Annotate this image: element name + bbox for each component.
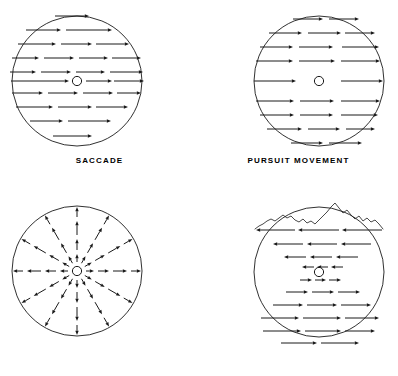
arrow-head — [371, 31, 375, 34]
arrow-head — [124, 105, 128, 108]
radial-flow-arrow — [75, 292, 78, 303]
arrow-shaft — [47, 318, 50, 323]
arrow-head — [330, 99, 334, 102]
arrow-head — [298, 31, 302, 34]
arrow-shaft — [104, 219, 107, 224]
arrow-shaft — [66, 265, 69, 267]
arrow-head — [331, 265, 335, 268]
arrow-head — [297, 329, 301, 332]
radial-flow-arrow — [131, 269, 141, 272]
arrow-shaft — [25, 241, 30, 244]
flow-arrow-right — [260, 113, 294, 116]
panel-saccade: SACCADE — [0, 0, 199, 188]
flow-arrow-left — [341, 242, 371, 245]
arrow-head — [75, 221, 78, 225]
flow-arrow-right — [307, 303, 337, 306]
arrow-head — [371, 127, 375, 130]
fixation-point-marker — [314, 267, 323, 276]
arrow-head — [256, 228, 260, 231]
arrow-head — [137, 269, 141, 272]
radial-flow-arrow — [95, 302, 102, 314]
arrow-shaft — [54, 302, 59, 310]
arrow-head — [375, 316, 379, 319]
flow-arrow-right — [315, 278, 326, 281]
radial-flow-arrow — [113, 269, 127, 272]
arrow-head — [289, 59, 293, 62]
radial-flow-arrow — [86, 269, 94, 272]
arrow-head — [273, 242, 277, 245]
arrow-shaft — [85, 276, 88, 278]
flow-arrow-left — [310, 255, 332, 258]
arrow-head — [62, 263, 66, 267]
arrow-head — [22, 239, 26, 243]
arrow-head — [302, 265, 306, 268]
flow-arrow-right — [53, 134, 92, 137]
radial-flow-arrow — [62, 263, 69, 267]
arrow-head — [128, 299, 132, 303]
arrow-head — [89, 243, 93, 247]
arrow-head — [374, 113, 378, 116]
arrow-head — [69, 281, 73, 285]
arrow-head — [61, 243, 65, 247]
flow-arrow-left — [284, 255, 306, 258]
flow-arrow-left — [331, 265, 343, 268]
radial-flow-arrow — [75, 254, 78, 262]
radial-flow-arrow — [98, 269, 109, 272]
optic-flow-figure: SACCADE PURSUIT MOVEMENT APPROACH MOVEME… — [0, 0, 398, 376]
parallax-flow-field — [199, 188, 398, 376]
radial-flow-arrow — [104, 216, 109, 225]
arrow-head — [88, 105, 92, 108]
arrow-head — [75, 331, 78, 335]
arrow-head — [109, 91, 113, 94]
radial-flow-arrow — [45, 216, 50, 225]
flow-arrow-right — [114, 79, 144, 82]
arrow-head — [89, 294, 93, 298]
flow-arrow-right — [341, 99, 380, 102]
arrow-shaft — [71, 260, 73, 263]
arrow-head — [342, 228, 346, 231]
radial-flow-arrow — [108, 289, 120, 296]
radial-flow-arrow — [52, 228, 59, 240]
arrow-head — [101, 70, 105, 73]
arrow-head — [75, 207, 78, 211]
arrow-head — [70, 56, 74, 59]
arrow-head — [116, 292, 120, 296]
arrow-head — [65, 79, 69, 82]
radial-flow-arrow — [27, 269, 41, 272]
radial-flow-arrow — [52, 302, 59, 314]
flow-arrow-right — [312, 290, 334, 293]
radial-flow-arrow — [85, 263, 92, 267]
radial-flow-arrow — [69, 256, 73, 263]
flow-arrow-right — [308, 31, 341, 34]
radial-flow-arrow — [45, 269, 56, 272]
arrow-shaft — [85, 265, 88, 267]
flow-arrow-left — [298, 228, 339, 231]
arrow-head — [322, 278, 326, 281]
arrow-head — [62, 276, 66, 280]
radial-flow-arrow — [95, 282, 105, 288]
arrow-head — [337, 329, 341, 332]
flow-arrow-right — [254, 79, 296, 82]
flow-arrow-right — [303, 316, 341, 319]
radial-flow-arrow — [108, 246, 120, 253]
arrow-head — [45, 216, 49, 220]
flow-arrow-right — [300, 278, 312, 281]
arrow-head — [125, 42, 129, 45]
flow-arrow-right — [338, 290, 360, 293]
flow-arrow-right — [61, 42, 92, 45]
arrow-head — [88, 134, 92, 137]
radial-flow-arrow — [49, 282, 59, 288]
arrow-head — [379, 79, 383, 82]
arrow-head — [75, 317, 78, 321]
flow-arrow-right — [18, 42, 56, 45]
arrow-head — [128, 239, 132, 243]
flow-arrow-right — [345, 316, 379, 319]
arrow-head — [100, 283, 104, 287]
arrow-head — [82, 256, 86, 260]
arrow-shaft — [63, 289, 66, 295]
arrow-head — [87, 263, 91, 267]
arrow-head — [34, 246, 38, 250]
arrow-head — [60, 269, 64, 272]
arrow-head — [32, 70, 36, 73]
arrow-shaft — [95, 282, 101, 285]
